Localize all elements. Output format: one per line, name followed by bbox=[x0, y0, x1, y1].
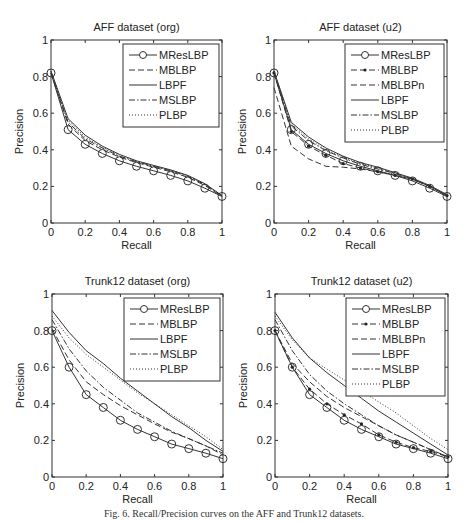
x-tick-label: 0.4 bbox=[337, 480, 352, 492]
y-tick-label: 0.8 bbox=[33, 71, 48, 83]
y-tick-label: 0.8 bbox=[257, 325, 272, 337]
y-tick-label: 0.4 bbox=[256, 144, 271, 156]
legend-label: PLBP bbox=[381, 124, 409, 136]
legend-label: MResLBP bbox=[381, 49, 431, 61]
x-tick-label: 0.6 bbox=[147, 480, 162, 492]
legend-label: MBLBPn bbox=[382, 333, 425, 345]
chart-trunk12-org: Trunk12 dataset (org)00.20.40.60.8100.20… bbox=[0, 254, 234, 506]
x-tick-label: 0.8 bbox=[181, 480, 196, 492]
data-marker bbox=[360, 422, 363, 425]
x-tick-label: 0.6 bbox=[370, 226, 385, 238]
legend-label: MSLBP bbox=[381, 109, 418, 121]
x-tick-label: 1 bbox=[444, 226, 450, 238]
legend-label: MSLBP bbox=[160, 348, 197, 360]
y-tick-label: 0.6 bbox=[34, 361, 49, 373]
legend-label: MResLBP bbox=[159, 49, 209, 61]
data-marker bbox=[342, 162, 345, 165]
legend: MResLBPMBLBPMBLBPnLBPFMSLBPPLBP bbox=[346, 298, 445, 396]
legend-label: PLBP bbox=[382, 378, 410, 390]
y-tick-label: 0.4 bbox=[33, 144, 48, 156]
x-tick-label: 0.8 bbox=[405, 226, 420, 238]
x-tick-label: 1 bbox=[219, 226, 225, 238]
x-tick-label: 0 bbox=[271, 226, 277, 238]
data-marker bbox=[343, 413, 346, 416]
chart-title: AFF dataset (org) bbox=[93, 21, 179, 33]
y-tick-label: 0.6 bbox=[256, 107, 271, 119]
chart-aff-org: AFF dataset (org)00.20.40.60.8100.20.40.… bbox=[0, 0, 234, 252]
legend-label: MResLBP bbox=[160, 303, 210, 315]
chart-svg: Trunk12 dataset (org)00.20.40.60.8100.20… bbox=[0, 254, 234, 506]
x-tick-label: 1 bbox=[220, 480, 226, 492]
legend: MResLBPMBLBPMBLBPnLBPFMSLBPPLBP bbox=[345, 44, 444, 142]
legend: MResLBPMBLBPLBPFMSLBPPLBP bbox=[124, 298, 220, 381]
x-axis-label: Recall bbox=[122, 493, 153, 505]
legend-label: MBLBP bbox=[160, 318, 197, 330]
data-marker bbox=[308, 388, 311, 391]
chart-svg: AFF dataset (u2)00.20.40.60.8100.20.40.6… bbox=[234, 0, 468, 252]
x-tick-label: 0.4 bbox=[336, 226, 351, 238]
y-tick-label: 0.4 bbox=[34, 398, 49, 410]
data-marker bbox=[291, 366, 294, 369]
y-tick-label: 1 bbox=[43, 288, 49, 300]
chart-svg: AFF dataset (org)00.20.40.60.8100.20.40.… bbox=[0, 0, 234, 252]
y-tick-label: 0.2 bbox=[33, 180, 48, 192]
x-tick-label: 0.8 bbox=[406, 480, 421, 492]
y-tick-label: 0 bbox=[42, 217, 48, 229]
chart-title: Trunk12 dataset (org) bbox=[85, 275, 190, 287]
data-marker bbox=[395, 441, 398, 444]
y-tick-label: 0.8 bbox=[34, 325, 49, 337]
x-tick-label: 0.4 bbox=[113, 480, 128, 492]
x-tick-label: 0.2 bbox=[78, 226, 93, 238]
legend-label: PLBP bbox=[159, 109, 187, 121]
x-tick-label: 0 bbox=[48, 226, 54, 238]
y-tick-label: 1 bbox=[42, 34, 48, 46]
legend-label: MResLBP bbox=[382, 303, 432, 315]
y-axis-label: Precision bbox=[237, 363, 249, 408]
y-tick-label: 0.8 bbox=[256, 71, 271, 83]
data-marker bbox=[290, 130, 293, 133]
y-axis-label: Precision bbox=[13, 109, 25, 154]
x-tick-label: 0 bbox=[49, 480, 55, 492]
y-tick-label: 1 bbox=[265, 34, 271, 46]
data-marker bbox=[377, 433, 380, 436]
chart-aff-u2: AFF dataset (u2)00.20.40.60.8100.20.40.6… bbox=[234, 0, 468, 252]
legend-label: MBLBP bbox=[159, 64, 196, 76]
legend-label: MBLBP bbox=[381, 64, 418, 76]
y-tick-label: 0 bbox=[266, 471, 272, 483]
chart-svg: Trunk12 dataset (u2)00.20.40.60.8100.20.… bbox=[234, 254, 468, 506]
y-tick-label: 0.2 bbox=[256, 180, 271, 192]
x-tick-label: 0.6 bbox=[146, 226, 161, 238]
legend-label: MSLBP bbox=[382, 363, 419, 375]
x-axis-label: Recall bbox=[345, 239, 376, 251]
y-tick-label: 0 bbox=[43, 471, 49, 483]
x-tick-label: 0 bbox=[272, 480, 278, 492]
data-marker bbox=[324, 154, 327, 157]
y-axis-label: Precision bbox=[236, 109, 248, 154]
y-axis-label: Precision bbox=[14, 363, 26, 408]
x-axis-label: Recall bbox=[346, 493, 377, 505]
y-tick-label: 0.4 bbox=[257, 398, 272, 410]
y-tick-label: 1 bbox=[266, 288, 272, 300]
y-tick-label: 0 bbox=[265, 217, 271, 229]
data-marker bbox=[412, 446, 415, 449]
legend: MResLBPMBLBPLBPFMSLBPPLBP bbox=[123, 44, 219, 127]
chart-title: Trunk12 dataset (u2) bbox=[311, 275, 413, 287]
figure-caption: Fig. 6. Recall/Precision curves on the A… bbox=[0, 508, 468, 519]
x-tick-label: 0.6 bbox=[371, 480, 386, 492]
chart-title: AFF dataset (u2) bbox=[319, 21, 402, 33]
x-tick-label: 0.2 bbox=[302, 480, 317, 492]
x-tick-label: 0.2 bbox=[79, 480, 94, 492]
legend-label: LBPF bbox=[160, 333, 188, 345]
legend-label: MBLBPn bbox=[381, 79, 424, 91]
y-tick-label: 0.6 bbox=[33, 107, 48, 119]
x-axis-label: Recall bbox=[121, 239, 152, 251]
legend-label: LBPF bbox=[382, 348, 410, 360]
y-tick-label: 0.2 bbox=[257, 434, 272, 446]
data-marker bbox=[325, 402, 328, 405]
x-tick-label: 0.2 bbox=[301, 226, 316, 238]
chart-trunk12-u2: Trunk12 dataset (u2)00.20.40.60.8100.20.… bbox=[234, 254, 468, 506]
legend-label: PLBP bbox=[160, 363, 188, 375]
legend-label: MSLBP bbox=[159, 94, 196, 106]
data-marker bbox=[307, 145, 310, 148]
y-tick-label: 0.6 bbox=[257, 361, 272, 373]
